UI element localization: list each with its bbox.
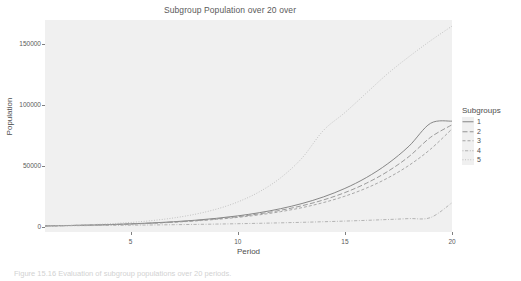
legend-item-label: 1 — [477, 117, 481, 127]
legend-item-label: 4 — [477, 146, 481, 156]
legend-item-label: 5 — [477, 155, 481, 165]
x-tick-mark — [345, 232, 346, 235]
x-tick-label: 15 — [330, 238, 360, 245]
x-axis-title: Period — [45, 247, 452, 256]
legend-key-icon — [462, 127, 474, 137]
legend-item-label: 3 — [477, 136, 481, 146]
x-axis-ticks: 5101520 — [0, 0, 521, 281]
x-tick-label: 20 — [437, 238, 467, 245]
x-tick-label: 10 — [223, 238, 253, 245]
figure-caption: Figure 15.16 Evaluation of subgroup popu… — [14, 269, 514, 278]
legend-items: 12345 — [462, 117, 520, 165]
legend-item-label: 2 — [477, 127, 481, 137]
legend-item-2[interactable]: 2 — [462, 127, 520, 137]
y-axis-title: Population — [5, 77, 14, 157]
x-tick-label: 5 — [116, 238, 146, 245]
legend-key-icon — [462, 146, 474, 156]
x-tick-mark — [452, 232, 453, 235]
legend-item-1[interactable]: 1 — [462, 117, 520, 127]
figure-container: Subgroup Population over 20 over 0500001… — [0, 0, 521, 281]
legend-key-icon — [462, 155, 474, 165]
x-tick-mark — [238, 232, 239, 235]
legend-item-4[interactable]: 4 — [462, 146, 520, 156]
x-tick-mark — [131, 232, 132, 235]
legend-title: Subgroups — [462, 106, 520, 115]
legend-key-icon — [462, 136, 474, 146]
legend-item-5[interactable]: 5 — [462, 155, 520, 165]
legend: Subgroups 12345 — [462, 106, 520, 165]
legend-item-3[interactable]: 3 — [462, 136, 520, 146]
legend-key-icon — [462, 117, 474, 127]
